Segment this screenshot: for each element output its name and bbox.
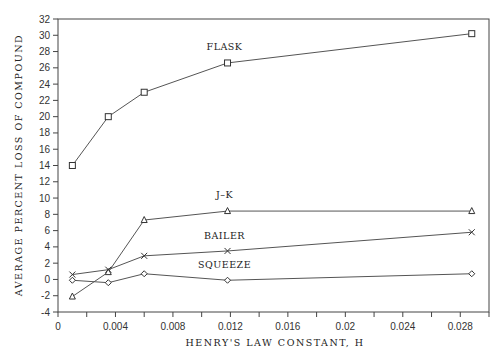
plot-frame	[58, 19, 489, 312]
y-tick-label: -4	[41, 307, 50, 318]
series-line	[72, 211, 471, 296]
plot-border	[58, 19, 489, 312]
y-tick-label: 26	[39, 62, 51, 73]
y-tick-label: 22	[39, 95, 51, 106]
x-tick-label: 0.012	[218, 321, 243, 332]
series-label: SQUEEZE	[198, 259, 251, 270]
series-flask: FLASK	[69, 31, 474, 169]
square-marker-icon	[69, 163, 75, 169]
y-tick-label: 4	[44, 241, 50, 252]
x-tick-label: 0.004	[103, 321, 128, 332]
y-tick-label: -2	[41, 290, 50, 301]
series-line	[72, 274, 471, 283]
series-squeeze: SQUEEZE	[69, 259, 474, 286]
x-axis: 00.0040.0080.0120.0160.020.0240.028	[55, 312, 489, 332]
y-tick-label: 16	[39, 144, 51, 155]
y-tick-label: 6	[44, 225, 50, 236]
y-tick-label: 8	[44, 209, 50, 220]
series-line	[72, 34, 471, 166]
diamond-marker-icon	[69, 277, 75, 283]
x-tick-label: 0.028	[448, 321, 473, 332]
series-label: BAILER	[204, 230, 245, 241]
triangle-marker-icon	[69, 293, 75, 299]
y-tick-label: 0	[44, 274, 50, 285]
square-marker-icon	[141, 89, 147, 95]
y-tick-label: 18	[39, 127, 51, 138]
y-axis-title: AVERAGE PERCENT LOSS OF COMPOUND	[13, 34, 24, 297]
x-tick-label: 0.02	[336, 321, 356, 332]
y-tick-label: 2	[44, 258, 50, 269]
y-tick-label: 10	[39, 193, 51, 204]
x-tick-label: 0	[55, 321, 61, 332]
series-line	[72, 232, 471, 274]
y-tick-label: 12	[39, 176, 51, 187]
series-j-k: J–K	[69, 189, 474, 299]
x-tick-label: 0.016	[275, 321, 300, 332]
diamond-marker-icon	[469, 271, 475, 277]
diamond-marker-icon	[225, 277, 231, 283]
series-bailer: BAILER	[69, 229, 474, 277]
y-tick-label: 24	[39, 79, 51, 90]
x-tick-label: 0.024	[390, 321, 415, 332]
y-tick-label: 28	[39, 46, 51, 57]
y-tick-label: 32	[39, 14, 51, 25]
diamond-marker-icon	[141, 271, 147, 277]
diamond-marker-icon	[105, 280, 111, 286]
series-layer: FLASKJ–KBAILERSQUEEZE	[69, 31, 474, 299]
y-tick-label: 20	[39, 111, 51, 122]
square-marker-icon	[469, 31, 475, 37]
series-label: J–K	[215, 189, 234, 200]
square-marker-icon	[225, 60, 231, 66]
x-tick-label: 0.008	[160, 321, 185, 332]
y-tick-label: 30	[39, 30, 51, 41]
square-marker-icon	[105, 114, 111, 120]
series-label: FLASK	[207, 41, 243, 52]
x-axis-title: HENRY'S LAW CONSTANT, H	[185, 337, 364, 348]
line-chart: -4-202468101214161820222426283032 00.004…	[0, 0, 491, 361]
y-axis: -4-202468101214161820222426283032	[39, 14, 58, 318]
y-tick-label: 14	[39, 160, 51, 171]
